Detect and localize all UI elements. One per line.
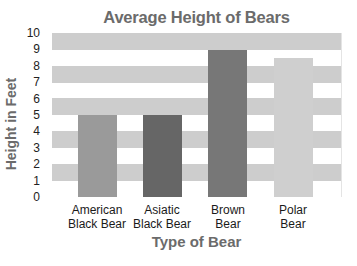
x-category-line: Bear — [258, 217, 328, 231]
x-category-line: Asiatic — [127, 203, 197, 217]
plot-area — [52, 33, 342, 197]
x-category-line: Bear — [193, 217, 263, 231]
y-tick-7: 7 — [20, 76, 40, 88]
chart-title: Average Height of Bears — [52, 8, 341, 27]
y-tick-4: 4 — [20, 125, 40, 137]
bar-asiatic-black-bear — [143, 115, 182, 197]
y-tick-1: 1 — [20, 175, 40, 187]
y-axis-label: Height in Feet — [3, 64, 21, 184]
y-tick-6: 6 — [20, 93, 40, 105]
x-category-line: Black Bear — [127, 217, 197, 231]
bar-brown-bear — [208, 50, 247, 197]
y-tick-2: 2 — [20, 158, 40, 170]
x-axis-label: Type of Bear — [52, 233, 341, 250]
x-category-brown-bear: Brown Bear — [193, 203, 263, 231]
y-tick-3: 3 — [20, 142, 40, 154]
bar-american-black-bear — [78, 115, 117, 197]
x-category-line: Black Bear — [62, 217, 132, 231]
y-tick-10: 10 — [20, 27, 40, 39]
x-category-polar-bear: Polar Bear — [258, 203, 328, 231]
x-category-american-black-bear: American Black Bear — [62, 203, 132, 231]
y-tick-8: 8 — [20, 60, 40, 72]
grid-band-9-10 — [52, 33, 341, 50]
x-category-asiatic-black-bear: Asiatic Black Bear — [127, 203, 197, 231]
x-category-line: Brown — [193, 203, 263, 217]
x-category-line: Polar — [258, 203, 328, 217]
y-tick-0: 0 — [20, 191, 40, 203]
y-tick-9: 9 — [20, 43, 40, 55]
x-category-line: American — [62, 203, 132, 217]
bar-polar-bear — [274, 58, 313, 197]
y-tick-5: 5 — [20, 109, 40, 121]
